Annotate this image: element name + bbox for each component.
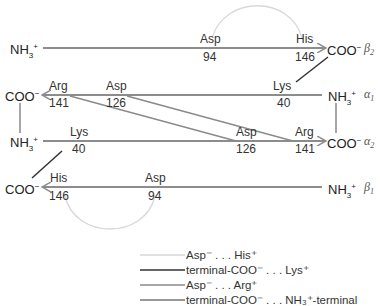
beta1-his-num: 146	[49, 190, 69, 203]
alpha1-c-terminal: COO−	[5, 87, 39, 103]
legend-asp-arg: Asp⁻ . . . Arg⁺	[186, 278, 257, 292]
alpha2-arg-name: Arg	[295, 126, 314, 139]
beta2-chain-label: β2	[364, 42, 374, 59]
alpha2-lys-num: 40	[72, 143, 85, 156]
beta2-his-name: His	[296, 33, 313, 46]
alpha1-asp-name: Asp	[106, 80, 127, 93]
legend-asp-his: Asp⁻ . . . His⁺	[186, 248, 257, 262]
legend-coo-lys: terminal-COO⁻ . . . Lys⁺	[186, 263, 309, 277]
alpha2-chain-label: α2	[364, 135, 374, 152]
beta1-asp-his-arc	[65, 196, 155, 229]
beta2-asp-name: Asp	[200, 33, 221, 46]
beta1-c-terminal: COO−	[5, 180, 39, 196]
beta2-n-terminal: NH3+	[10, 40, 38, 62]
alpha2-c-terminal: COO−	[327, 134, 361, 150]
beta2-asp-num: 94	[203, 51, 216, 64]
beta1-asp-num: 94	[148, 190, 161, 203]
alpha2-arg-num: 141	[295, 143, 315, 156]
legend-coo-nh3: terminal-COO⁻ . . . NH₃⁺-terminal	[186, 293, 357, 306]
beta2-c-terminal: COO−	[327, 41, 361, 57]
beta1-chain-label: β1	[364, 181, 374, 198]
alpha1-lys-name: Lys	[273, 80, 291, 93]
alpha2-n-terminal: NH3+	[10, 133, 38, 155]
beta2-his-num: 146	[295, 51, 315, 64]
beta2-asp-his-arc	[212, 6, 302, 38]
beta1-his-name: His	[50, 172, 67, 185]
alpha1-arg-name: Arg	[49, 80, 68, 93]
alpha2-asp-name: Asp	[236, 126, 257, 139]
alpha1-asp-num: 126	[106, 97, 126, 110]
beta1-n-terminal: NH3+	[328, 180, 356, 202]
alpha1-n-terminal: NH3+	[328, 87, 356, 109]
beta1-asp-name: Asp	[145, 172, 166, 185]
alpha1-arg-num: 141	[49, 97, 69, 110]
alpha2-lys-name: Lys	[70, 126, 88, 139]
alpha2-asp-num: 126	[236, 143, 256, 156]
alpha1-lys-num: 40	[277, 97, 290, 110]
alpha1-chain-label: α1	[364, 88, 374, 105]
